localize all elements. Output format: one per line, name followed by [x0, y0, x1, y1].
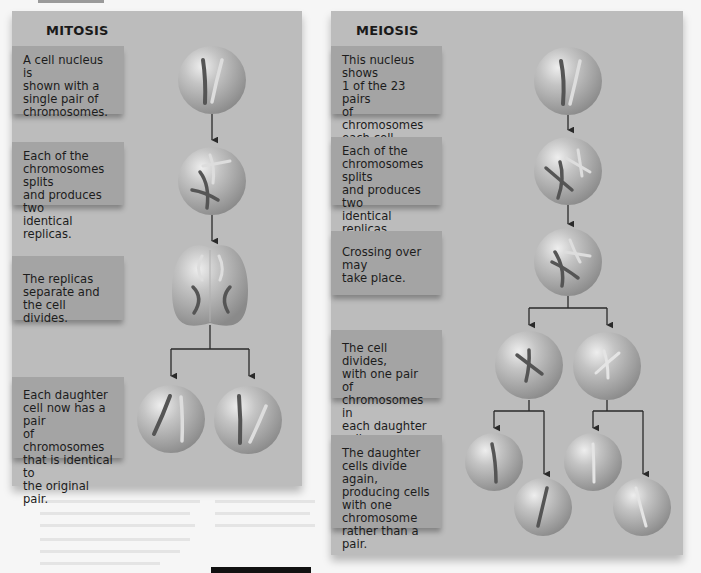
mitosis-branch-arrows: [171, 325, 249, 376]
meiosis-cell-2: [534, 137, 602, 205]
mitosis-daughter-cell-2: [214, 386, 282, 454]
meiosis-gamete-cell-1: [465, 433, 523, 491]
meiosis-daughter-cell-1: [495, 331, 563, 399]
page-footer-bar: [211, 567, 311, 573]
meiosis-gamete-cell-3: [564, 433, 622, 491]
cell-division-diagram: [0, 0, 701, 573]
meiosis-branch-arrows-1: [529, 296, 607, 325]
meiosis-crossing-over-cell: [534, 228, 602, 296]
meiosis-cell-1: [534, 47, 602, 115]
mitosis-cell-2: [178, 147, 246, 215]
meiosis-gamete-cell-2: [514, 478, 572, 536]
mitosis-cell-1: [178, 46, 246, 114]
meiosis-daughter-cell-2: [573, 332, 641, 400]
mitosis-dividing-cell: [172, 245, 248, 326]
mitosis-daughter-cell-1: [137, 385, 205, 453]
meiosis-gamete-cell-4: [613, 478, 671, 536]
